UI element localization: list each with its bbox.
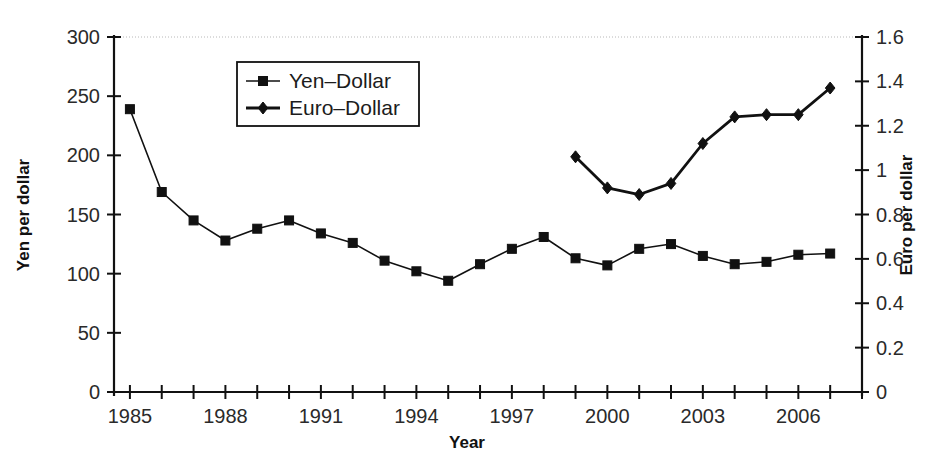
- data-point-marker: [730, 260, 739, 269]
- data-point-marker: [259, 77, 268, 86]
- y-tick-label-left: 250: [67, 85, 100, 107]
- x-tick-label: 1991: [299, 405, 344, 427]
- data-point-marker: [253, 224, 262, 233]
- y-axis-right-title: Euro per dollar: [897, 154, 916, 275]
- data-point-marker: [826, 249, 835, 258]
- data-point-marker: [221, 236, 230, 245]
- chart-container: 19851988199119941997200020032006 0501001…: [0, 0, 934, 456]
- data-point-marker: [762, 257, 771, 266]
- data-point-marker: [635, 244, 644, 253]
- x-axis-title: Year: [449, 433, 485, 452]
- data-point-marker: [316, 229, 325, 238]
- y-tick-label-left: 100: [67, 263, 100, 285]
- x-tick-label: 2006: [776, 405, 821, 427]
- data-point-marker: [667, 240, 676, 249]
- data-point-marker: [380, 256, 389, 265]
- chart-background: [0, 0, 934, 456]
- data-point-marker: [571, 254, 580, 263]
- x-tick-label: 1985: [108, 405, 153, 427]
- data-point-marker: [507, 244, 516, 253]
- data-point-marker: [189, 216, 198, 225]
- legend-box: Yen–DollarEuro–Dollar: [237, 62, 419, 126]
- y-tick-label-right: 0.2: [876, 337, 904, 359]
- y-tick-label-right: 1.4: [876, 70, 904, 92]
- data-point-marker: [539, 232, 548, 241]
- y-tick-label-left: 0: [89, 381, 100, 403]
- y-tick-label-left: 150: [67, 204, 100, 226]
- x-tick-label: 2000: [585, 405, 630, 427]
- y-tick-label-left: 200: [67, 144, 100, 166]
- y-tick-label-right: 1: [876, 159, 887, 181]
- data-point-marker: [794, 250, 803, 259]
- data-point-marker: [157, 188, 166, 197]
- data-point-marker: [603, 261, 612, 270]
- data-point-marker: [444, 276, 453, 285]
- x-tick-label: 1994: [394, 405, 439, 427]
- legend-label: Euro–Dollar: [289, 96, 400, 119]
- y-tick-label-left: 50: [78, 322, 100, 344]
- data-point-marker: [698, 251, 707, 260]
- data-point-marker: [348, 238, 357, 247]
- y-axis-left-title: Yen per dollar: [14, 158, 33, 271]
- y-tick-label-right: 0.4: [876, 292, 904, 314]
- y-tick-label-right: 0: [876, 381, 887, 403]
- y-tick-label-right: 1.6: [876, 26, 904, 48]
- exchange-rate-line-chart: 19851988199119941997200020032006 0501001…: [0, 0, 934, 456]
- legend-label: Yen–Dollar: [289, 69, 391, 92]
- x-tick-label: 1997: [490, 405, 535, 427]
- data-point-marker: [125, 105, 134, 114]
- x-tick-label: 1988: [203, 405, 248, 427]
- data-point-marker: [476, 260, 485, 269]
- data-point-marker: [412, 267, 421, 276]
- data-point-marker: [285, 216, 294, 225]
- y-tick-label-right: 1.2: [876, 115, 904, 137]
- x-tick-label: 2003: [681, 405, 726, 427]
- y-tick-label-left: 300: [67, 26, 100, 48]
